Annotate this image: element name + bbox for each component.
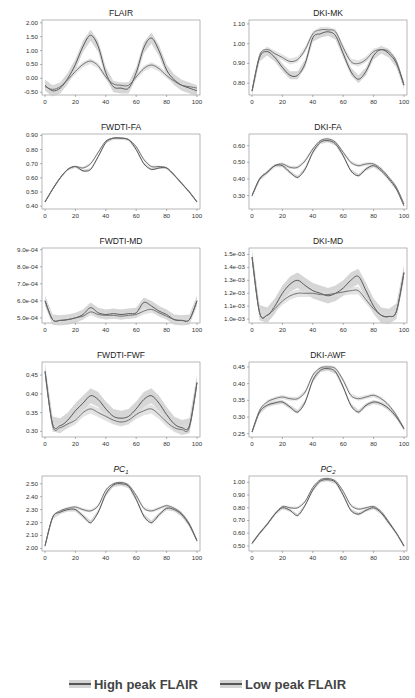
y-tick-label: 0.45 xyxy=(26,371,39,378)
y-tick-label: 0.25 xyxy=(233,430,246,437)
confidence-band xyxy=(252,365,404,434)
y-tick-label: 2.40 xyxy=(26,493,39,500)
chart-title: FWDTI-FWF xyxy=(97,350,145,360)
x-tick-label: 0 xyxy=(43,212,47,219)
x-tick-label: 80 xyxy=(370,554,377,561)
y-tick-label: 0.70 xyxy=(26,160,39,167)
y-tick-label: 0.60 xyxy=(233,529,246,536)
y-tick-label: 0.35 xyxy=(233,396,246,403)
x-tick-label: 60 xyxy=(340,554,347,561)
x-tick-label: 20 xyxy=(72,326,79,333)
x-tick-label: 80 xyxy=(370,98,377,105)
y-tick-label: 2.00 xyxy=(26,544,39,551)
x-tick-label: 40 xyxy=(309,326,316,333)
y-tick-label: 0.80 xyxy=(26,146,39,153)
x-tick-label: 80 xyxy=(163,326,170,333)
x-tick-label: 40 xyxy=(309,440,316,447)
y-tick-label: 9.0e-04 xyxy=(17,246,39,253)
x-tick-label: 40 xyxy=(309,554,316,561)
y-tick-label: 0.30 xyxy=(233,192,246,199)
x-tick-label: 40 xyxy=(309,98,316,105)
x-tick-label: 100 xyxy=(192,98,203,105)
y-tick-label: 0.30 xyxy=(26,427,39,434)
x-tick-label: 100 xyxy=(399,212,410,219)
series-line-low-peak xyxy=(252,478,404,545)
x-tick-label: 20 xyxy=(279,554,286,561)
legend-swatch-low-peak-icon xyxy=(220,680,242,688)
y-tick-label: 7.0e-04 xyxy=(17,280,39,287)
chart-panel-dki-awf: DKI-AWF0.250.300.350.400.45020406080100 xyxy=(207,342,415,456)
series-line-high-peak xyxy=(252,32,404,91)
y-tick-label: 0.70 xyxy=(233,516,246,523)
x-tick-label: 80 xyxy=(370,326,377,333)
x-tick-label: 0 xyxy=(250,212,254,219)
y-tick-label: 2.50 xyxy=(26,480,39,487)
y-tick-label: 0.90 xyxy=(233,491,246,498)
y-tick-label: 1.2e-03 xyxy=(224,289,246,296)
y-tick-label: 6.0e-04 xyxy=(17,297,39,304)
chart-title: PC1 xyxy=(113,464,128,475)
x-tick-label: 80 xyxy=(163,440,170,447)
y-tick-label: 0.00 xyxy=(26,74,39,81)
y-tick-label: 0.50 xyxy=(26,188,39,195)
series-line-high-peak xyxy=(45,484,197,546)
x-tick-label: 40 xyxy=(309,212,316,219)
x-tick-label: 20 xyxy=(279,98,286,105)
chart-title: DKI-AWF xyxy=(310,350,346,360)
y-tick-label: 1.00 xyxy=(26,47,39,54)
chart-title: FLAIR xyxy=(109,8,133,18)
x-tick-label: 60 xyxy=(340,212,347,219)
chart-title: FWDTI-FA xyxy=(101,122,141,132)
x-tick-label: 100 xyxy=(192,212,203,219)
x-tick-label: 0 xyxy=(43,440,47,447)
y-tick-label: 0.50 xyxy=(233,158,246,165)
y-tick-label: 2.00 xyxy=(26,19,39,26)
x-tick-label: 100 xyxy=(192,554,203,561)
y-tick-label: 0.50 xyxy=(233,542,246,549)
legend: High peak FLAIR Low peak FLAIR xyxy=(0,672,415,696)
chart-panel-fwdti-fa: FWDTI-FA0.400.500.600.700.800.9002040608… xyxy=(0,114,208,228)
x-tick-label: 80 xyxy=(370,212,377,219)
y-tick-label: 0.80 xyxy=(233,504,246,511)
x-tick-label: 0 xyxy=(250,440,254,447)
y-tick-label: 0.90 xyxy=(233,59,246,66)
y-tick-label: 1.10 xyxy=(233,20,246,27)
y-tick-label: 2.20 xyxy=(26,519,39,526)
y-tick-label: 1.5e-03 xyxy=(224,250,246,257)
x-tick-label: 40 xyxy=(102,98,109,105)
y-tick-label: 0.50 xyxy=(26,60,39,67)
x-tick-label: 80 xyxy=(163,212,170,219)
y-tick-label: 5.0e-04 xyxy=(17,314,39,321)
chart-panel-pc1: PC12.002.102.202.302.402.50020406080100 xyxy=(0,456,208,570)
x-tick-label: 60 xyxy=(133,212,140,219)
y-tick-label: 0.40 xyxy=(233,380,246,387)
x-tick-label: 60 xyxy=(133,440,140,447)
plot-area xyxy=(42,476,200,551)
legend-label-high-peak: High peak FLAIR xyxy=(94,677,198,692)
y-tick-label: 0.45 xyxy=(233,363,246,370)
x-tick-label: 60 xyxy=(340,326,347,333)
x-tick-label: 80 xyxy=(370,440,377,447)
confidence-band xyxy=(252,477,404,547)
y-tick-label: 0.30 xyxy=(233,413,246,420)
x-tick-label: 100 xyxy=(399,326,410,333)
chart-panel-fwdti-md: FWDTI-MD5.0e-046.0e-047.0e-048.0e-049.0e… xyxy=(0,228,208,342)
x-tick-label: 60 xyxy=(133,326,140,333)
x-tick-label: 100 xyxy=(399,98,410,105)
y-tick-label: 1.0e-03 xyxy=(224,315,246,322)
confidence-band xyxy=(252,139,404,207)
x-tick-label: 0 xyxy=(43,326,47,333)
x-tick-label: 0 xyxy=(250,98,254,105)
series-line-low-peak xyxy=(45,138,197,202)
y-tick-label: 2.10 xyxy=(26,531,39,538)
chart-panel-dki-fa: DKI-FA0.300.400.500.60020406080100 xyxy=(207,114,415,228)
series-line-high-peak xyxy=(252,141,404,206)
y-tick-label: 0.35 xyxy=(26,409,39,416)
legend-label-low-peak: Low peak FLAIR xyxy=(245,677,346,692)
y-tick-label: 1.00 xyxy=(233,40,246,47)
confidence-band xyxy=(45,482,197,548)
x-tick-label: 40 xyxy=(102,440,109,447)
chart-panel-pc2: PC20.500.600.700.800.901.00020406080100 xyxy=(207,456,415,570)
x-tick-label: 20 xyxy=(72,440,79,447)
x-tick-label: 0 xyxy=(43,98,47,105)
